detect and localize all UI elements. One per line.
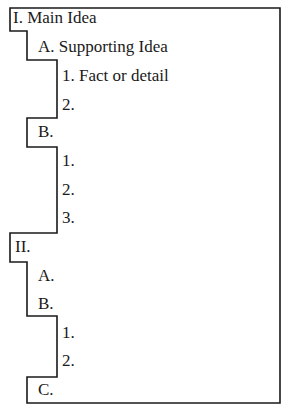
outline-item-level-0: II. bbox=[15, 237, 31, 257]
outline-item-level-0: I. Main Idea bbox=[13, 8, 97, 28]
outline-item-level-2: 1. Fact or detail bbox=[62, 66, 169, 86]
outline-item-level-2: 2. bbox=[62, 351, 75, 371]
outline-item-level-2: 2. bbox=[62, 180, 75, 200]
outline-item-level-1: C. bbox=[38, 380, 54, 400]
outline-item-level-2: 3. bbox=[62, 208, 75, 228]
outline-item-level-1: A. bbox=[38, 266, 55, 286]
outline-item-level-1: B. bbox=[38, 122, 54, 142]
outline-item-level-2: 1. bbox=[62, 323, 75, 343]
outline-item-level-2: 1. bbox=[62, 151, 75, 171]
outline-item-level-1: B. bbox=[38, 294, 54, 314]
outline-item-level-2: 2. bbox=[62, 95, 75, 115]
outline-frame bbox=[0, 0, 286, 412]
outline-item-level-1: A. Supporting Idea bbox=[38, 37, 168, 57]
